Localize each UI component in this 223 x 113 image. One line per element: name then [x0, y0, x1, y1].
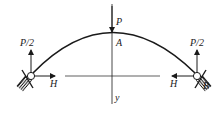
label-right-p-half: P/2 — [189, 37, 204, 48]
label-right-h: H — [169, 78, 178, 89]
label-apex-a: A — [115, 37, 123, 48]
label-left-h: H — [49, 78, 58, 89]
right-hinge-icon — [193, 72, 200, 79]
label-support-b: B — [203, 80, 209, 91]
arch-curve — [33, 33, 195, 74]
left-hinge-icon — [27, 72, 34, 79]
arch-diagram: P A P/2 P/2 H H B y — [0, 0, 223, 113]
label-axis-y: y — [114, 92, 120, 103]
label-left-p-half: P/2 — [19, 37, 34, 48]
label-load-p: P — [115, 16, 122, 27]
